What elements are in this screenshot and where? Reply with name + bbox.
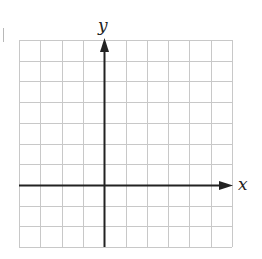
coordinate-grid <box>0 0 262 259</box>
grid-lines <box>19 40 233 248</box>
y-axis-label: y <box>98 17 108 34</box>
y-axis <box>100 38 109 247</box>
x-axis-arrowhead-icon <box>219 181 233 190</box>
x-axis-label: x <box>238 176 248 193</box>
